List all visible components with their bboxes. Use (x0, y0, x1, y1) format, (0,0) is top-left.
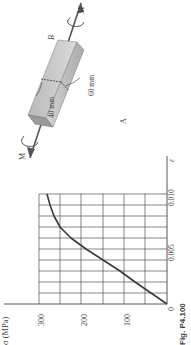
stress-strain-graph: 300 200 100 0 0.005 0.010 ε σ (MPa) (0, 156, 176, 345)
label-dim-60: 60 mm (87, 75, 96, 96)
label-A: A (119, 118, 128, 124)
figure-caption: Fig. P4.100 (178, 303, 187, 345)
epsilon-tick-0.005: 0.005 (167, 244, 176, 261)
label-M: M (18, 153, 27, 160)
sigma-tick-0: 0 (167, 307, 176, 311)
figure-canvas: M′ B 60 mm 40 mm A M (0, 0, 191, 345)
bar-diagram: M′ B 60 mm 40 mm A M (18, 3, 128, 160)
label-M-prime: M′ (77, 5, 86, 14)
sigma-tick-200: 200 (80, 314, 89, 326)
epsilon-tick-0.010: 0.010 (167, 189, 176, 206)
epsilon-axis-label: ε (167, 158, 176, 162)
sigma-tick-300: 300 (37, 314, 46, 326)
label-B: B (47, 35, 56, 40)
sigma-axis-label: σ (MPa) (0, 316, 10, 345)
sigma-tick-100: 100 (123, 314, 132, 326)
label-dim-40: 40 mm (47, 97, 56, 118)
